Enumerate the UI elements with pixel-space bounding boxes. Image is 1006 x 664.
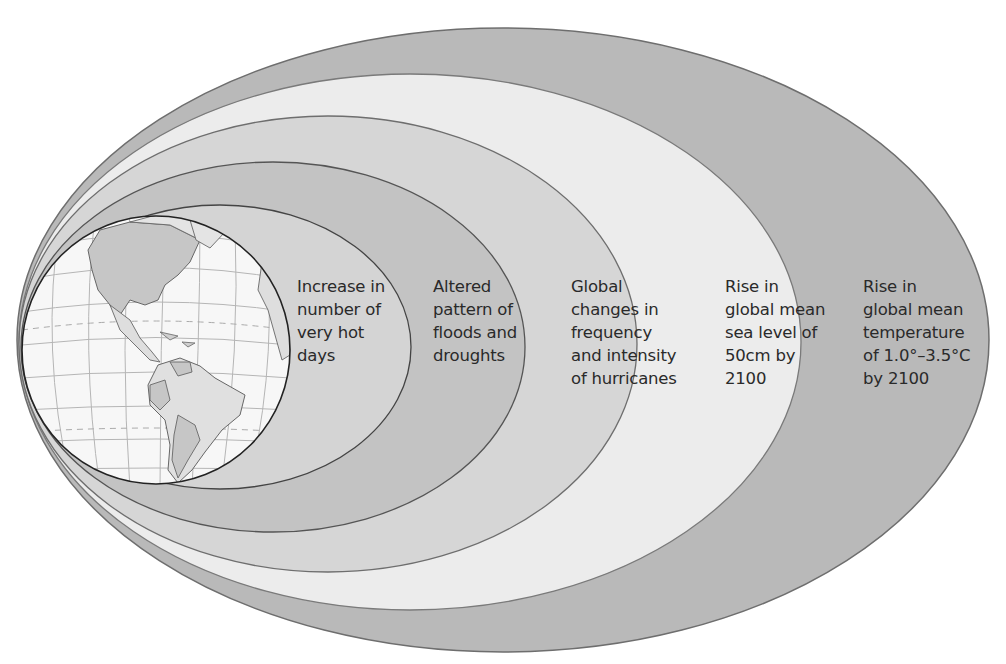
ring-1-label: Increase in number of very hot days xyxy=(297,275,385,367)
ring-4-label: Rise in global mean sea level of 50cm by… xyxy=(725,275,825,390)
ring-5-label: Rise in global mean temperature of 1.0°–… xyxy=(863,275,970,390)
ring-3-label: Global changes in frequency and intensit… xyxy=(571,275,677,390)
ring-2-label: Altered pattern of floods and droughts xyxy=(433,275,517,367)
